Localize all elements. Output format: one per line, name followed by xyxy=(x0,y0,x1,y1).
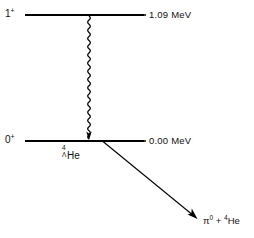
pion-charge-superscript: 0 xyxy=(210,214,214,221)
ground-level-spin-parity: 0+ xyxy=(5,135,15,145)
weak-decay-arrow-shaft xyxy=(103,142,194,217)
helium-element-symbol: He xyxy=(228,215,240,226)
excited-level-energy-label: 1.09 MeV xyxy=(149,10,191,20)
ground-level-parity-sign: + xyxy=(11,133,15,140)
nuclide-hyperon-symbol: Λ xyxy=(62,152,66,159)
plus-operator: + xyxy=(216,215,222,226)
nuclide-prescripts: 4Λ xyxy=(62,146,67,159)
ground-level-energy-label: 0.00 MeV xyxy=(149,136,191,146)
excited-level-spin-parity: 1+ xyxy=(5,9,15,19)
gamma-transition-wave xyxy=(88,16,91,139)
decay-products-label: π0 + 4He xyxy=(203,216,240,226)
excited-level-parity-sign: + xyxy=(11,7,15,14)
nuclide-element-symbol: He xyxy=(67,150,80,161)
gamma-transition-arrowhead xyxy=(86,132,91,141)
level-scheme-drawing xyxy=(0,0,254,238)
weak-decay-arrowhead xyxy=(188,209,198,219)
nuclide-label: 4ΛHe xyxy=(62,146,80,161)
level-scheme-figure: 1+ 0+ 1.09 MeV 0.00 MeV 4ΛHe π0 + 4He xyxy=(0,0,254,238)
